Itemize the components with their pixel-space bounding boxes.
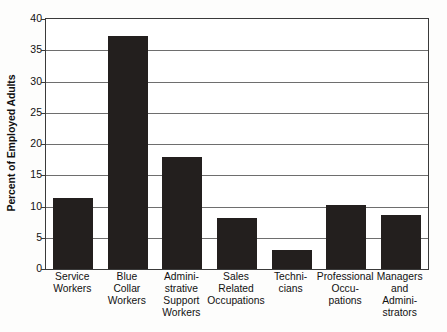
y-axis-title-text: Percent of Employed Adults: [5, 74, 17, 211]
x-axis-category-labels: ServiceWorkersBlueCollarWorkersAdmini-st…: [45, 271, 429, 332]
y-tick-label-40: 40: [22, 13, 42, 23]
x-label-line: Admini-: [150, 271, 213, 283]
x-label: ProfessionalOccu-pations: [314, 271, 377, 307]
bar: [162, 157, 202, 270]
y-tick-label-20: 20: [22, 138, 42, 148]
bar: [108, 36, 148, 269]
x-label-line: Techni-: [259, 271, 322, 283]
bar-chart: Percent of Employed Adults 4035302520151…: [0, 0, 447, 332]
bar: [53, 198, 93, 269]
x-label-line: Professional: [314, 271, 377, 283]
x-label-line: Sales: [205, 271, 268, 283]
x-label-line: and: [368, 283, 431, 295]
x-label-line: strative: [150, 283, 213, 295]
x-label-line: pations: [314, 295, 377, 307]
x-label-line: Blue: [96, 271, 159, 283]
x-label-line: Managers: [368, 271, 431, 283]
x-label-line: Workers: [41, 283, 104, 295]
y-axis-tick-labels: 4035302520151050: [22, 18, 42, 268]
y-axis-title: Percent of Employed Adults: [0, 0, 22, 285]
plot-area: [45, 18, 429, 270]
bar: [272, 250, 312, 269]
x-label-line: Related: [205, 283, 268, 295]
y-tick-label-5: 5: [22, 232, 42, 242]
x-label-line: cians: [259, 283, 322, 295]
bar: [217, 218, 257, 269]
y-tick-label-25: 25: [22, 107, 42, 117]
y-tick-label-15: 15: [22, 169, 42, 179]
y-tick-label-30: 30: [22, 76, 42, 86]
x-label: SalesRelatedOccupations: [205, 271, 268, 307]
x-label-line: Support: [150, 295, 213, 307]
x-label: ManagersandAdmini-strators: [368, 271, 431, 319]
x-label: Techni-cians: [259, 271, 322, 295]
x-label-line: Collar: [96, 283, 159, 295]
x-label-line: Workers: [96, 295, 159, 307]
x-label: ServiceWorkers: [41, 271, 104, 295]
bar: [326, 205, 366, 269]
bar: [381, 215, 421, 269]
x-label-line: Workers: [150, 307, 213, 319]
x-label-line: Occupations: [205, 295, 268, 307]
x-label-line: strators: [368, 307, 431, 319]
y-tick-label-0: 0: [22, 263, 42, 273]
y-tickmark-0: [41, 269, 46, 270]
x-label-line: Occu-: [314, 283, 377, 295]
x-label-line: Admini-: [368, 295, 431, 307]
y-tick-label-10: 10: [22, 201, 42, 211]
x-label-line: Service: [41, 271, 104, 283]
x-label: BlueCollarWorkers: [96, 271, 159, 307]
y-tick-label-35: 35: [22, 44, 42, 54]
x-label: Admini-strativeSupportWorkers: [150, 271, 213, 319]
bars-layer: [46, 19, 428, 269]
